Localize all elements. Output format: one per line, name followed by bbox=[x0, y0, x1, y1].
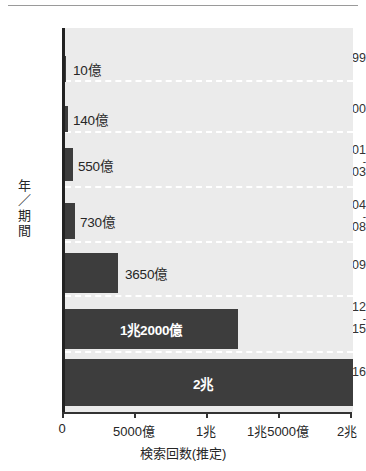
gridline bbox=[65, 241, 353, 243]
x-axis-tick-label: 2兆 bbox=[337, 421, 357, 440]
bar-value-label: 1兆2000億 bbox=[120, 319, 182, 339]
bar bbox=[65, 106, 68, 132]
x-axis-tick-label: 1兆 bbox=[196, 421, 216, 440]
bar-row: 1兆2000億 bbox=[65, 309, 353, 349]
y-axis-title-char-2: 期 bbox=[16, 208, 32, 223]
gridline bbox=[65, 186, 353, 188]
bar-value-label: 10億 bbox=[73, 59, 100, 79]
x-axis-tick-label: 0 bbox=[58, 421, 65, 436]
bar-value-label: 730億 bbox=[80, 211, 115, 231]
bar bbox=[65, 203, 75, 239]
bar bbox=[65, 253, 118, 293]
x-axis-tick bbox=[62, 412, 64, 418]
plot-area: 10億 140億 550億 730億 3650億 1兆2000億 2兆 bbox=[62, 28, 353, 412]
x-axis-tick bbox=[278, 412, 280, 418]
gridline bbox=[65, 295, 353, 297]
x-axis-tick-label: 5000億 bbox=[113, 421, 155, 440]
bar-row: 730億 bbox=[65, 203, 353, 239]
bar-value-label: 3650億 bbox=[125, 263, 167, 283]
bar-row: 10億 bbox=[65, 56, 353, 82]
bar-value-label: 2兆 bbox=[193, 373, 213, 393]
bar-value-label: 140億 bbox=[73, 109, 108, 129]
bar-row: 2兆 bbox=[65, 359, 353, 406]
gridline bbox=[65, 351, 353, 353]
bar-row: 140億 bbox=[65, 106, 353, 132]
bar-row: 550億 bbox=[65, 148, 353, 181]
x-axis-title: 検索回数(推定) bbox=[0, 443, 366, 462]
y-axis-title-char-3: 間 bbox=[16, 223, 32, 238]
x-axis-tick bbox=[134, 412, 136, 418]
x-axis-tick bbox=[206, 412, 208, 418]
bar-chart-figure: 年 ／ 期 間 1999 2000 2001 - 2003 2004 - 200… bbox=[0, 0, 366, 471]
y-axis-title-char-1: ／ bbox=[16, 193, 32, 208]
x-axis-tick bbox=[350, 412, 352, 418]
y-axis-title: 年 ／ 期 間 bbox=[16, 178, 32, 238]
bar-value-label: 550億 bbox=[78, 155, 113, 175]
y-axis-title-char-0: 年 bbox=[16, 178, 32, 193]
x-axis-tick-label: 1兆5000億 bbox=[247, 421, 309, 440]
bar bbox=[65, 148, 73, 181]
bar-row: 3650億 bbox=[65, 253, 353, 293]
bar bbox=[65, 56, 66, 82]
